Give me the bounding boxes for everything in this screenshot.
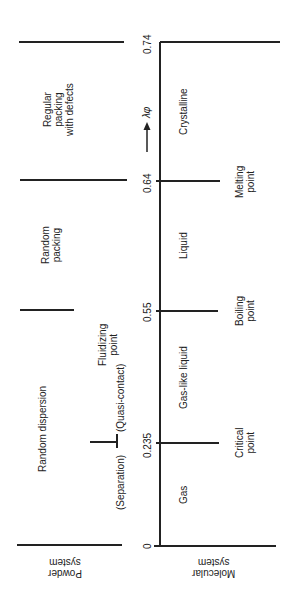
tick-0.74 [160, 41, 280, 43]
region-random-dispersion: Random dispersion [37, 386, 48, 472]
tick-label-0.235: 0.235 [142, 433, 153, 458]
tick-0.64 [156, 180, 220, 182]
powder-line-0.235 [90, 441, 117, 443]
fluidizing-point-label: Fluidizing point [97, 324, 119, 366]
arrow-up-icon [142, 122, 152, 152]
region-crystalline: Crystalline [178, 88, 189, 135]
separation-label: (Separation) [115, 455, 126, 510]
powder-line-0.74 [19, 41, 124, 43]
boiling-point-label: Boiling point [234, 296, 256, 326]
tick-label-0.55: 0.55 [142, 303, 153, 322]
powder-divider-quasi [116, 434, 118, 448]
tick-0.235 [156, 442, 219, 444]
quasi-contact-label: (Quasi-contact) [115, 364, 126, 432]
tick-label-0.74: 0.74 [142, 35, 153, 54]
powder-line-0.64 [20, 179, 127, 181]
region-regular-packing: Regular packing with defects [42, 83, 75, 136]
powder-system-label: Powder system [48, 557, 82, 579]
region-liquid: Liquid [178, 232, 189, 259]
region-gas: Gas [178, 486, 189, 504]
tick-0 [154, 545, 276, 547]
melting-point-label: Melting point [234, 166, 256, 198]
molecular-system-label: Molecular system [192, 557, 235, 579]
tick-label-0.64: 0.64 [142, 174, 153, 193]
molecular-axis [159, 42, 161, 545]
tick-label-0: 0 [142, 543, 153, 549]
critical-point-label: Critical point [234, 427, 256, 458]
powder-line-0 [17, 544, 122, 546]
axis-variable-label: λφ [141, 107, 152, 118]
powder-line-0.55 [20, 309, 74, 311]
tick-0.55 [156, 310, 218, 312]
region-gas-like-liquid: Gas-like liquid [178, 346, 189, 409]
region-random-packing: Random packing [40, 226, 62, 264]
